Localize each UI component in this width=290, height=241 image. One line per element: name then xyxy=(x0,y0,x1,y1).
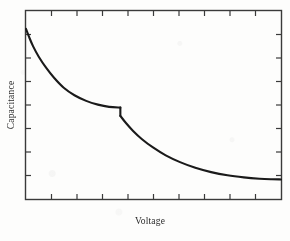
plot-frame xyxy=(26,11,282,200)
capacitance-voltage-chart: Capacitance Voltage xyxy=(0,0,290,241)
y-axis-label: Capacitance xyxy=(6,81,16,130)
curve-branch-2 xyxy=(120,116,281,180)
x-axis-label: Voltage xyxy=(135,216,165,226)
axis-ticks xyxy=(26,11,281,199)
data-curve-group xyxy=(26,29,281,180)
curve-branch-1 xyxy=(26,29,120,108)
figure-container: Capacitance Voltage xyxy=(0,0,290,241)
